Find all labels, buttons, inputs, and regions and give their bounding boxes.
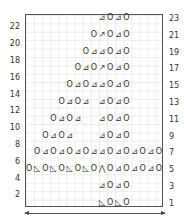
stitch-symbol: O [106,165,114,173]
row-label-left: 8 [6,141,20,149]
stitch-symbol: O [41,132,49,140]
chart-row-19: O⊿⊿O⊿O [26,48,162,56]
row-label-right: 17 [169,65,183,73]
row-label-left: 6 [6,158,20,166]
stitch-symbol: ⊿ [98,48,106,56]
stitch-symbol: O [90,31,98,39]
stitch-symbol: ⊿ [90,81,98,89]
stitch-symbol: ↗ [98,31,106,39]
stitch-symbol: O [90,64,98,72]
stitch-symbol: O [33,148,41,156]
row-label-left: 18 [6,57,20,65]
chart-row-5: O◺O◺O◺O◺O⋀O⊿O⊿O⊿O [26,165,162,173]
stitch-symbol: ◺ [66,165,74,173]
chart-row-21: O↗O⊿O [26,31,162,39]
row-label-right: 9 [169,133,183,141]
stitch-symbol: ⊿ [98,81,106,89]
stitch-symbol: ⊿ [82,64,90,72]
row-label-right: 3 [169,183,183,191]
chart-row-3: ⊿O⊿O [26,182,162,190]
chart-row-13: O⊿O⊿⊿O⊿O [26,98,162,106]
stitch-symbol: ⊿ [114,182,122,190]
stitch-symbol: ⊿ [114,165,122,173]
repeat-width-arrow [25,213,165,214]
stitch-symbol: ⊿ [66,132,74,140]
row-label-right: 13 [169,99,183,107]
stitch-symbol: ⊿ [82,98,90,106]
stitch-symbol: O [82,148,90,156]
stitch-symbol: ⊿ [66,98,74,106]
stitch-symbol: O [106,81,114,89]
stitch-symbol: ⊿ [131,165,139,173]
stitch-symbol: ⊿ [114,14,122,22]
stitch-symbol: ⊿ [57,148,65,156]
stitch-symbol: O [106,182,114,190]
stitch-symbol: ◺ [33,165,41,173]
stitch-symbol: ⊿ [74,81,82,89]
stitch-symbol: O [106,199,114,207]
row-label-left: 10 [6,124,20,132]
stitch-symbol: ⊿ [90,48,98,56]
stitch-symbol: ⊿ [74,148,82,156]
stitch-symbol: O [122,148,130,156]
stitch-symbol: O [106,31,114,39]
stitch-symbol: O [106,98,114,106]
stitch-symbol: O [139,148,147,156]
stitch-symbol: O [106,48,114,56]
stitch-symbol: ⊿ [114,115,122,123]
stitch-symbol: O [122,115,130,123]
stitch-symbol: ◺ [82,165,90,173]
stitch-symbol: ⊿ [114,148,122,156]
stitch-symbol: ◺ [114,199,122,207]
stitch-symbol: ⊿ [114,48,122,56]
stitch-symbol: O [66,148,74,156]
row-label-left: 20 [6,40,20,48]
chart-row-11: O⊿O⊿⊿O⊿O [26,115,162,123]
stitch-symbol: ⊿ [98,132,106,140]
knitting-chart-grid: ⊿O⊿OO↗O⊿OO⊿⊿O⊿OO⊿O↗O⊿OO⊿O⊿⊿O⊿OO⊿O⊿⊿O⊿OO⊿… [25,14,163,207]
stitch-symbol: ⊿ [114,64,122,72]
stitch-symbol: O [106,14,114,22]
stitch-symbol: O [155,165,163,173]
stitch-symbol: O [122,48,130,56]
stitch-symbol: ⊿ [114,81,122,89]
row-label-left: 2 [6,191,20,199]
stitch-symbol: O [122,14,130,22]
row-label-right: 15 [169,82,183,90]
stitch-symbol: O [49,148,57,156]
row-label-right: 7 [169,149,183,157]
stitch-symbol: O [122,132,130,140]
stitch-symbol: O [106,148,114,156]
stitch-symbol: ⊿ [98,14,106,22]
row-label-right: 19 [169,49,183,57]
chart-row-15: O⊿O⊿⊿O⊿O [26,81,162,89]
stitch-symbol: ⊿ [49,132,57,140]
stitch-symbol: O [57,132,65,140]
stitch-symbol: O [66,81,74,89]
stitch-symbol: O [122,199,130,207]
chart-row-7: O⊿O⊿O⊿O⊿⊿O⊿O⊿O⊿O [26,148,162,156]
chart-row-17: O⊿O↗O⊿O [26,64,162,72]
stitch-symbol: O [74,64,82,72]
stitch-symbol: O [122,31,130,39]
row-label-right: 11 [169,116,183,124]
stitch-symbol: ⊿ [57,115,65,123]
stitch-symbol: ⊿ [98,115,106,123]
row-label-right: 21 [169,32,183,40]
chart-row-9: O⊿O⊿⊿O⊿O [26,132,162,140]
stitch-symbol: O [57,165,65,173]
row-label-left: 12 [6,107,20,115]
row-label-left: 16 [6,74,20,82]
stitch-symbol: ⊿ [147,148,155,156]
stitch-symbol: O [106,64,114,72]
stitch-symbol: O [139,165,147,173]
stitch-symbol: ⊿ [131,148,139,156]
stitch-symbol: ⊿ [147,165,155,173]
stitch-symbol: O [49,115,57,123]
stitch-symbol: O [106,132,114,140]
stitch-symbol: ⊿ [114,98,122,106]
stitch-symbol: O [74,98,82,106]
row-label-left: 4 [6,175,20,183]
stitch-symbol: O [82,81,90,89]
chart-row-1: ◺O◺O [26,199,162,207]
